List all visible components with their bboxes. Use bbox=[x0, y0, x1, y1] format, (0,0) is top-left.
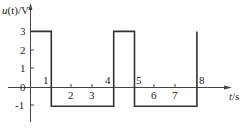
y-axis-label: u(t)/V bbox=[2, 4, 29, 17]
x-tick-label-5: 5 bbox=[136, 74, 142, 86]
x-axis-arrow-icon bbox=[224, 86, 232, 90]
y-tick-label-neg1: -1 bbox=[15, 99, 24, 111]
x-tick-label-2: 2 bbox=[68, 89, 74, 101]
waveform-diagram: u(t)/V 3 2 1 0 -1 1 2 3 4 5 6 7 8 t/s bbox=[0, 0, 252, 130]
y-axis-arrow-icon bbox=[29, 3, 33, 10]
x-axis-label: t/s bbox=[229, 90, 239, 102]
origin-label: 0 bbox=[20, 81, 26, 93]
x-tick-label-6: 6 bbox=[151, 89, 157, 101]
y-tick-label-1: 1 bbox=[20, 62, 26, 74]
y-tick-label-2: 2 bbox=[20, 44, 26, 56]
x-tick-label-1: 1 bbox=[43, 74, 49, 86]
x-tick-label-7: 7 bbox=[172, 89, 178, 101]
axes bbox=[8, 3, 232, 122]
y-tick-label-3: 3 bbox=[20, 25, 26, 37]
x-tick-label-3: 3 bbox=[89, 89, 95, 101]
x-tick-label-8: 8 bbox=[199, 74, 205, 86]
x-tick-label-4: 4 bbox=[105, 74, 111, 86]
